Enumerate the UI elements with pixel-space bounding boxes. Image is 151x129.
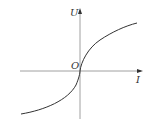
u-axis-arrow-icon (78, 8, 82, 14)
i-axis-arrow-icon (137, 69, 143, 73)
u-axis-label: U (70, 7, 79, 18)
origin-label: O (71, 60, 79, 71)
u-i-graph: U O I (0, 0, 151, 129)
i-axis-label: I (135, 74, 141, 85)
